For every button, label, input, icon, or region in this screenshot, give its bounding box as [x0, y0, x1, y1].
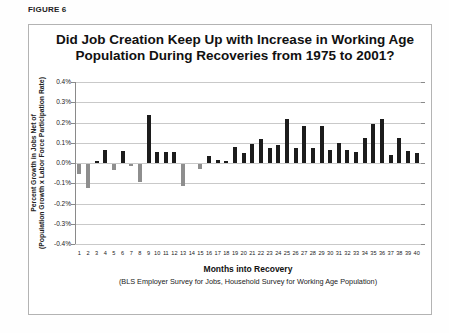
bar-month-27	[302, 126, 306, 163]
bar-month-28	[311, 148, 315, 163]
bar-month-2	[86, 164, 90, 188]
y-tick-right	[421, 102, 425, 103]
bar-month-23	[268, 148, 272, 163]
bar-month-9	[147, 115, 151, 163]
bar-month-5	[112, 164, 116, 170]
bar-month-40	[415, 153, 419, 163]
bar-month-12	[172, 152, 176, 163]
y-tick-right	[421, 244, 425, 245]
bar-month-13	[181, 164, 185, 186]
bar-month-25	[285, 119, 289, 163]
bar-month-11	[164, 152, 168, 163]
figure-label: FIGURE 6	[28, 5, 67, 14]
chart-title: Did Job Creation Keep Up with Increase i…	[40, 32, 430, 65]
gridline	[75, 163, 421, 164]
x-tick-label-40: 40	[411, 250, 423, 256]
bar-month-30	[328, 150, 332, 163]
bar-month-18	[224, 161, 228, 163]
gridline	[75, 82, 421, 83]
bar-month-32	[345, 150, 349, 163]
bar-month-7	[129, 164, 133, 166]
y-tick-label: 0.3%	[40, 98, 71, 106]
y-axis-line	[75, 82, 76, 244]
y-tick-label: -0.3%	[40, 220, 71, 228]
gridline	[75, 102, 421, 103]
bar-month-6	[121, 151, 125, 163]
bar-month-33	[354, 152, 358, 163]
y-tick-right	[421, 183, 425, 184]
bar-month-22	[259, 139, 263, 163]
bar-month-16	[207, 156, 211, 163]
bar-month-24	[276, 145, 280, 163]
bar-month-26	[294, 148, 298, 163]
gridline	[75, 183, 421, 184]
y-tick-right	[421, 163, 425, 164]
bar-month-17	[216, 160, 220, 163]
y-tick-label: 0.1%	[40, 139, 71, 147]
x-axis-title: Months into Recovery	[98, 264, 398, 274]
bar-month-1	[77, 164, 81, 174]
bar-month-39	[406, 151, 410, 163]
bar-month-15	[198, 164, 202, 169]
bar-month-4	[103, 150, 107, 163]
bar-month-8	[138, 164, 142, 182]
figure-page: FIGURE 6 Did Job Creation Keep Up with I…	[0, 0, 449, 333]
bar-month-35	[371, 124, 375, 163]
y-tick-right	[421, 224, 425, 225]
y-tick-label: 0.0%	[40, 159, 71, 167]
chart-title-line1: Did Job Creation Keep Up with Increase i…	[56, 32, 414, 47]
bar-month-21	[250, 144, 254, 163]
bar-month-36	[380, 119, 384, 163]
bar-month-3	[95, 161, 99, 163]
bar-month-34	[363, 138, 367, 163]
y-tick-right	[421, 204, 425, 205]
y-axis-title-line1: Percent Growth in Jobs Net of	[30, 114, 37, 211]
y-tick-label: -0.2%	[40, 200, 71, 208]
gridline	[75, 224, 421, 225]
bar-month-19	[233, 147, 237, 163]
gridline	[75, 244, 421, 245]
y-tick-left	[71, 244, 75, 245]
bar-month-38	[397, 138, 401, 163]
y-tick-right	[421, 82, 425, 83]
y-tick-right	[421, 123, 425, 124]
bar-month-37	[389, 155, 393, 163]
gridline	[75, 143, 421, 144]
bar-month-10	[155, 152, 159, 163]
source-footnote: (BLS Employer Survey for Jobs, Household…	[58, 277, 438, 286]
y-tick-label: -0.4%	[40, 240, 71, 248]
bar-month-20	[242, 153, 246, 163]
bar-month-29	[320, 126, 324, 163]
y-tick-label: -0.1%	[40, 179, 71, 187]
chart-title-line2: Population During Recoveries from 1975 t…	[76, 48, 395, 63]
y-tick-label: 0.4%	[40, 78, 71, 86]
gridline	[75, 204, 421, 205]
bar-month-31	[337, 143, 341, 163]
y-tick-right	[421, 143, 425, 144]
gridline	[75, 123, 421, 124]
y-tick-label: 0.2%	[40, 119, 71, 127]
